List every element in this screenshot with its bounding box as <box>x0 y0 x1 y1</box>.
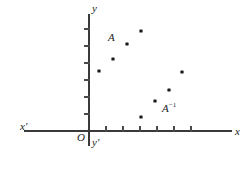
data-point-A-inverse-1 <box>153 99 156 102</box>
data-point-A-2 <box>125 42 128 45</box>
data-point-A-inverse-2 <box>167 88 170 91</box>
curve-label-a-inverse-base: A <box>162 102 169 114</box>
data-point-A-1 <box>111 57 114 60</box>
curve-label-a-inverse-exponent: −1 <box>169 101 176 109</box>
series-a-points <box>97 29 142 72</box>
x-axis-positive-label: x <box>235 126 240 137</box>
data-point-A-inverse-3 <box>180 70 183 73</box>
origin-label: O <box>77 132 85 143</box>
curve-label-a: A <box>108 32 115 43</box>
data-point-A-inverse-0 <box>139 115 142 118</box>
coordinate-plot <box>0 0 247 169</box>
figure-canvas: y y' x x' O A A−1 <box>0 0 247 169</box>
x-axis-negative-label: x' <box>20 121 27 132</box>
y-axis-negative-label: y' <box>92 137 99 148</box>
axes-group <box>24 14 232 146</box>
curve-label-a-inverse: A−1 <box>162 103 176 114</box>
data-point-A-0 <box>97 69 100 72</box>
data-point-A-3 <box>139 29 142 32</box>
y-axis-positive-label: y <box>92 3 97 14</box>
